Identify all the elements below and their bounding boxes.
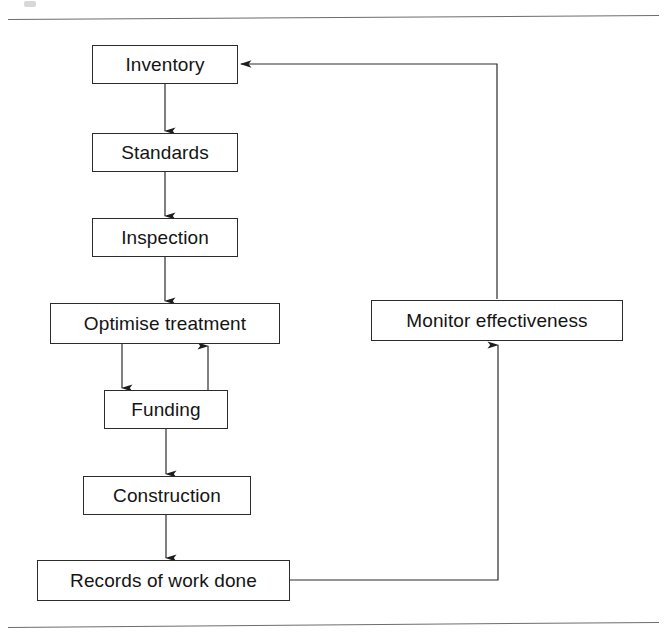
node-inventory-label: Inventory [125, 55, 204, 74]
node-construction[interactable]: Construction [83, 476, 251, 515]
node-inspection[interactable]: Inspection [92, 218, 238, 257]
node-inventory[interactable]: Inventory [92, 45, 238, 84]
node-inspection-label: Inspection [121, 228, 209, 247]
node-funding[interactable]: Funding [104, 390, 228, 429]
node-monitor-effectiveness-label: Monitor effectiveness [406, 311, 587, 330]
node-construction-label: Construction [113, 486, 221, 505]
edge-monitor-to-inventory [241, 64, 497, 299]
node-standards[interactable]: Standards [92, 133, 238, 172]
node-optimise-treatment-label: Optimise treatment [84, 314, 246, 333]
node-records-of-work-done[interactable]: Records of work done [37, 560, 290, 601]
node-funding-label: Funding [131, 400, 200, 419]
flowchart-diagram: Inventory Standards Inspection Optimise … [0, 0, 667, 639]
node-standards-label: Standards [121, 143, 209, 162]
node-monitor-effectiveness[interactable]: Monitor effectiveness [371, 300, 623, 341]
edge-records-to-monitor [290, 345, 498, 580]
node-optimise-treatment[interactable]: Optimise treatment [50, 303, 280, 344]
node-records-of-work-done-label: Records of work done [70, 571, 257, 590]
